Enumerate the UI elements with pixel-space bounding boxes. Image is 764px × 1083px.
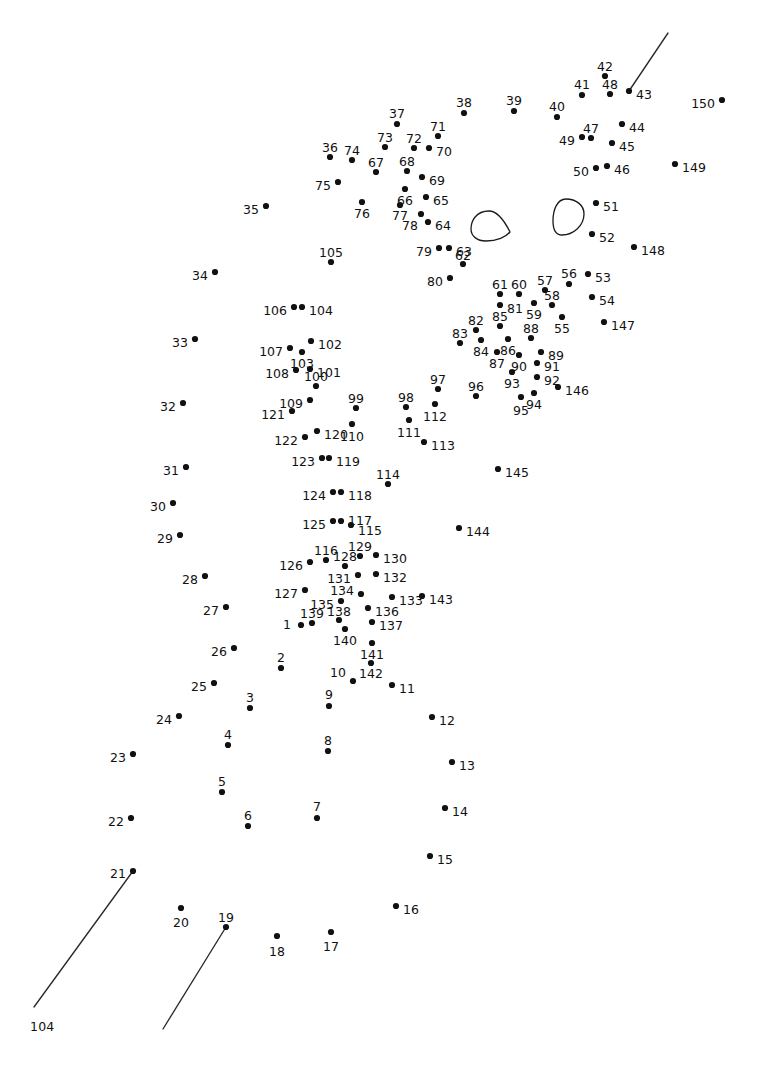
dot-marker-117[interactable]	[338, 518, 344, 524]
dot-29[interactable]: 29	[157, 531, 183, 546]
dot-36[interactable]: 36	[322, 140, 338, 161]
dot-marker-64[interactable]	[425, 219, 431, 225]
dot-marker-45[interactable]	[609, 140, 615, 146]
dot-7[interactable]: 7	[313, 799, 321, 822]
dot-marker-52[interactable]	[589, 231, 595, 237]
dot-114[interactable]: 114	[376, 467, 400, 488]
dot-16[interactable]: 16	[393, 902, 419, 917]
dot-marker-49[interactable]	[579, 134, 585, 140]
dot-marker-80[interactable]	[447, 275, 453, 281]
dot-38[interactable]: 38	[456, 95, 472, 117]
dot-112[interactable]: 112	[423, 401, 447, 424]
dot-marker-22[interactable]	[128, 815, 134, 821]
dot-86[interactable]: 86	[500, 336, 516, 358]
dot-123[interactable]: 123	[291, 454, 325, 469]
dot-122[interactable]: 122	[274, 433, 308, 448]
dot-17[interactable]: 17	[323, 929, 339, 954]
dot-55[interactable]: 55	[554, 314, 570, 336]
dot-marker-92[interactable]	[534, 374, 540, 380]
dot-marker-81[interactable]	[497, 302, 503, 308]
dot-marker-3[interactable]	[247, 705, 253, 711]
dot-13[interactable]: 13	[449, 758, 475, 773]
dot-70[interactable]: 70	[426, 144, 452, 159]
dot-19[interactable]: 19	[218, 910, 234, 931]
dot-88[interactable]: 88	[523, 321, 539, 342]
dot-marker-18[interactable]	[274, 933, 280, 939]
dot-2[interactable]: 2	[277, 650, 285, 672]
dot-marker-41[interactable]	[579, 92, 585, 98]
dot-marker-76[interactable]	[359, 199, 365, 205]
dot-30[interactable]: 30	[150, 499, 176, 514]
dot-marker-91[interactable]	[534, 360, 540, 366]
dot-marker-126[interactable]	[307, 559, 313, 565]
dot-73[interactable]: 73	[377, 130, 393, 151]
dot-marker-88[interactable]	[528, 335, 534, 341]
dot-marker-34[interactable]	[212, 269, 218, 275]
dot-marker-120[interactable]	[314, 428, 320, 434]
dot-147[interactable]: 147	[601, 318, 635, 333]
dot-marker-48[interactable]	[607, 91, 613, 97]
dot-marker-137[interactable]	[369, 619, 375, 625]
dot-marker-86[interactable]	[505, 336, 511, 342]
dot-103[interactable]: 103	[290, 349, 314, 371]
dot-22[interactable]: 22	[108, 814, 134, 829]
dot-40[interactable]: 40	[549, 99, 565, 121]
dot-31[interactable]: 31	[163, 463, 189, 478]
dot-41[interactable]: 41	[574, 77, 590, 99]
dot-marker-90[interactable]	[516, 352, 522, 358]
dot-51[interactable]: 51	[593, 199, 619, 214]
dot-79[interactable]: 79	[416, 244, 442, 259]
dot-43[interactable]: 43	[626, 87, 652, 102]
dot-65[interactable]: 65	[423, 193, 449, 208]
dot-4[interactable]: 4	[224, 727, 232, 749]
dot-marker-27[interactable]	[223, 604, 229, 610]
dot-marker-125[interactable]	[330, 518, 336, 524]
dot-marker-102[interactable]	[308, 338, 314, 344]
dot-marker-100[interactable]	[313, 383, 319, 389]
dot-marker-10[interactable]	[350, 678, 356, 684]
dot-marker-110[interactable]	[349, 421, 355, 427]
dot-marker-118[interactable]	[338, 489, 344, 495]
dot-39[interactable]: 39	[506, 93, 522, 115]
dot-marker-112[interactable]	[432, 401, 438, 407]
dot-marker-104[interactable]	[299, 304, 305, 310]
dot-marker-6[interactable]	[245, 823, 251, 829]
dot-99[interactable]: 99	[348, 391, 364, 412]
dot-marker-75[interactable]	[335, 179, 341, 185]
dot-91[interactable]: 91	[534, 359, 560, 374]
dot-143[interactable]: 143	[419, 592, 453, 607]
dot-marker-38[interactable]	[461, 110, 467, 116]
dot-104[interactable]: 104	[299, 303, 333, 318]
dot-49[interactable]: 49	[559, 133, 585, 148]
dot-6[interactable]: 6	[244, 808, 252, 830]
dot-59[interactable]: 59	[526, 300, 542, 322]
dot-117[interactable]: 117	[338, 513, 372, 528]
dot-marker-131[interactable]	[355, 572, 361, 578]
dot-marker-63[interactable]	[446, 245, 452, 251]
dot-marker-43[interactable]	[626, 88, 632, 94]
dot-130[interactable]: 130	[373, 551, 407, 566]
dot-marker-17[interactable]	[328, 929, 334, 935]
dot-3[interactable]: 3	[246, 690, 254, 712]
dot-139[interactable]: 139	[300, 606, 324, 627]
dot-marker-129[interactable]	[357, 553, 363, 559]
dot-marker-85[interactable]	[497, 323, 503, 329]
dot-marker-47[interactable]	[588, 135, 594, 141]
dot-35[interactable]: 35	[243, 202, 269, 217]
dot-marker-13[interactable]	[449, 759, 455, 765]
dot-85[interactable]: 85	[492, 309, 508, 330]
dot-32[interactable]: 32	[160, 399, 186, 414]
dot-52[interactable]: 52	[589, 230, 615, 245]
dot-marker-59[interactable]	[531, 300, 537, 306]
dot-125[interactable]: 125	[302, 517, 336, 532]
dot-marker-111[interactable]	[406, 417, 412, 423]
dot-marker-132[interactable]	[373, 571, 379, 577]
dot-105[interactable]: 105	[319, 245, 343, 266]
dot-marker-54[interactable]	[589, 294, 595, 300]
dot-marker-44[interactable]	[619, 121, 625, 127]
dot-102[interactable]: 102	[308, 337, 342, 352]
dot-marker-19[interactable]	[223, 924, 229, 930]
dot-marker-93[interactable]	[509, 369, 515, 375]
dot-53[interactable]: 53	[585, 270, 611, 285]
dot-121[interactable]: 121	[261, 407, 295, 422]
